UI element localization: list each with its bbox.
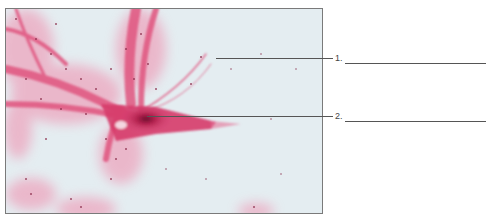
micrograph-image — [6, 9, 322, 213]
leader-line-1 — [216, 58, 333, 59]
label-number-2: 2. — [335, 111, 343, 121]
answer-blank-2[interactable] — [345, 121, 486, 122]
neuron-micrograph — [5, 8, 323, 214]
answer-blank-1[interactable] — [345, 63, 486, 64]
label-number-1: 1. — [335, 53, 343, 63]
leader-line-2 — [147, 116, 333, 117]
